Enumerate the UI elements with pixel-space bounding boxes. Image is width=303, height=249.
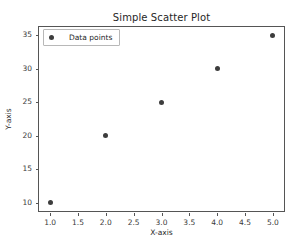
y-tick-mark bbox=[36, 136, 39, 137]
x-tick-mark bbox=[245, 213, 246, 216]
y-axis-label: Y-axis bbox=[4, 108, 13, 129]
y-tick-mark bbox=[36, 203, 39, 204]
data-point bbox=[48, 200, 53, 205]
x-tick-mark bbox=[217, 213, 218, 216]
x-tick-label: 5.0 bbox=[253, 218, 293, 227]
x-axis-label: X-axis bbox=[38, 228, 285, 237]
plot-area: Data points 1.01.52.02.53.03.54.04.55.01… bbox=[38, 26, 285, 212]
y-tick-mark bbox=[36, 102, 39, 103]
x-tick-mark bbox=[134, 213, 135, 216]
legend-label: Data points bbox=[69, 33, 112, 42]
data-point bbox=[159, 100, 164, 105]
y-tick-mark bbox=[36, 35, 39, 36]
x-tick-mark bbox=[162, 213, 163, 216]
chart-title: Simple Scatter Plot bbox=[38, 12, 285, 23]
y-tick-mark bbox=[36, 69, 39, 70]
data-point bbox=[215, 66, 220, 71]
x-tick-mark bbox=[189, 213, 190, 216]
data-point bbox=[270, 33, 275, 38]
x-tick-mark bbox=[78, 213, 79, 216]
scatter-plot-figure: Simple Scatter Plot Data points 1.01.52.… bbox=[0, 0, 303, 249]
legend-marker-icon bbox=[49, 35, 54, 40]
x-tick-mark bbox=[273, 213, 274, 216]
data-point bbox=[103, 133, 108, 138]
y-axis-label-wrapper: Y-axis bbox=[2, 26, 14, 212]
x-tick-mark bbox=[50, 213, 51, 216]
y-tick-mark bbox=[36, 169, 39, 170]
data-points-layer bbox=[39, 27, 284, 211]
x-tick-mark bbox=[106, 213, 107, 216]
legend: Data points bbox=[43, 29, 120, 46]
